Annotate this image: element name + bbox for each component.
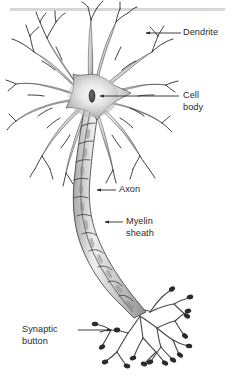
label-synaptic-button-line-1: Synaptic [22, 324, 58, 336]
synaptic-buttons [96, 290, 189, 365]
label-synaptic-button: Synaptic button [22, 324, 58, 347]
label-myelin-sheath: Myelin sheath [126, 216, 154, 239]
label-myelin-sheath-line-1: Myelin [126, 216, 154, 228]
neuron-diagram-page: Dendrite Cell body Axon Myelin sheath Sy… [0, 0, 233, 387]
label-dendrite-line-1: Dendrite [183, 27, 218, 39]
label-synaptic-button-line-2: button [22, 336, 58, 348]
label-axon-line-1: Axon [119, 184, 140, 196]
label-myelin-sheath-line-2: sheath [126, 228, 154, 240]
label-cell-body: Cell body [183, 90, 203, 113]
nucleus [89, 90, 95, 103]
label-cell-body-line-2: body [183, 102, 203, 114]
label-cell-body-line-1: Cell [183, 90, 203, 102]
top-divider-bar [10, 8, 225, 11]
axon [73, 110, 146, 318]
label-axon: Axon [119, 184, 140, 196]
label-dendrite: Dendrite [183, 27, 218, 39]
